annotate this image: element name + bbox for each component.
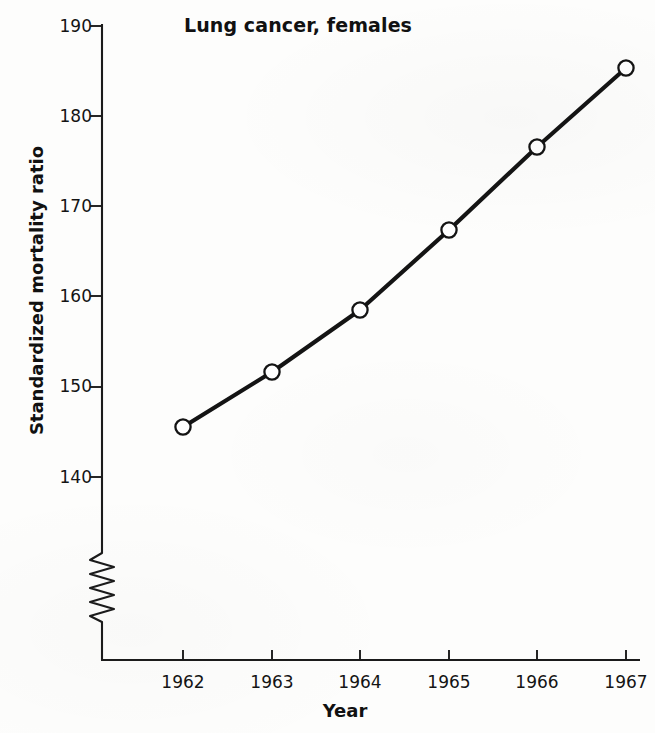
chart-figure: Lung cancer, females Standardized mortal… bbox=[0, 0, 655, 733]
y-axis-break-zigzag-icon bbox=[90, 553, 114, 622]
data-point-marker-1966 bbox=[529, 139, 544, 154]
data-point-marker-1964 bbox=[352, 302, 367, 317]
data-point-marker-1963 bbox=[264, 364, 279, 379]
data-point-marker-1965 bbox=[441, 222, 456, 237]
data-point-marker-1967 bbox=[618, 60, 633, 75]
plot-area bbox=[0, 0, 655, 733]
data-point-marker-1962 bbox=[175, 419, 190, 434]
data-series-line bbox=[183, 68, 626, 427]
